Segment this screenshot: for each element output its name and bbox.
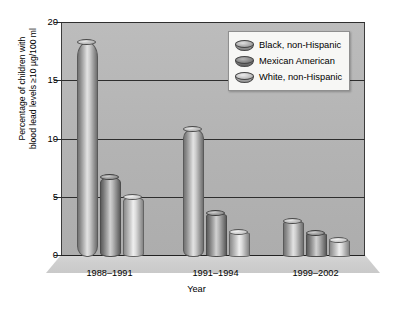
- bar-chart: Percentage of children with blood lead l…: [0, 0, 393, 316]
- bar: [206, 213, 225, 255]
- bar: [183, 129, 202, 255]
- x-axis-title: Year: [0, 284, 393, 294]
- legend: Black, non-HispanicMexican AmericanWhite…: [228, 31, 350, 91]
- y-tick-label: 5: [32, 191, 58, 202]
- bar-cap: [306, 230, 325, 236]
- bar-body: [229, 232, 250, 257]
- bar: [306, 233, 325, 255]
- legend-swatch-top: [235, 40, 254, 48]
- bar: [229, 232, 248, 255]
- legend-item: Black, non-Hispanic: [235, 37, 342, 53]
- bar: [283, 221, 302, 255]
- gridline: [61, 22, 365, 23]
- gridline: [61, 139, 365, 140]
- bar: [123, 197, 142, 255]
- bar-body: [306, 233, 327, 257]
- legend-swatch-icon: [235, 72, 254, 83]
- legend-label: Mexican American: [259, 56, 335, 66]
- y-tick-label: 20: [32, 16, 58, 27]
- legend-swatch-icon: [235, 40, 254, 51]
- bar-cap: [100, 174, 119, 180]
- bar: [329, 240, 348, 255]
- x-tick-label: 1991–1994: [176, 268, 256, 278]
- legend-label: Black, non-Hispanic: [259, 40, 341, 50]
- y-axis-title-line-1: Percentage of children with: [17, 0, 28, 189]
- bar-cap: [229, 229, 248, 235]
- legend-swatch-icon: [235, 56, 254, 67]
- bar-body: [100, 177, 121, 257]
- legend-item: White, non-Hispanic: [235, 69, 342, 85]
- bar-body: [183, 129, 204, 257]
- legend-swatch-top: [235, 56, 254, 64]
- y-tick-label: 10: [32, 133, 58, 144]
- x-tick-label: 1988–1991: [70, 268, 150, 278]
- x-tick-label: 1999–2002: [276, 268, 356, 278]
- y-tick-label: 15: [32, 74, 58, 85]
- bar-cap: [206, 210, 225, 216]
- legend-label: White, non-Hispanic: [259, 72, 342, 82]
- y-axis-title-line-2: blood lead levels ≥10 µg/100 ml: [28, 0, 39, 189]
- bar-cap: [123, 194, 142, 200]
- legend-swatch-top: [235, 72, 254, 80]
- bar-body: [123, 197, 144, 257]
- bar: [77, 42, 96, 255]
- bar-body: [206, 213, 227, 257]
- legend-item: Mexican American: [235, 53, 342, 69]
- bar: [100, 177, 119, 255]
- bar-body: [77, 42, 98, 257]
- y-axis-title: Percentage of children with blood lead l…: [17, 0, 38, 189]
- bar-body: [283, 221, 304, 257]
- bar-cap: [77, 39, 96, 45]
- bar-cap: [329, 237, 348, 243]
- y-tick-label: 0: [32, 249, 58, 260]
